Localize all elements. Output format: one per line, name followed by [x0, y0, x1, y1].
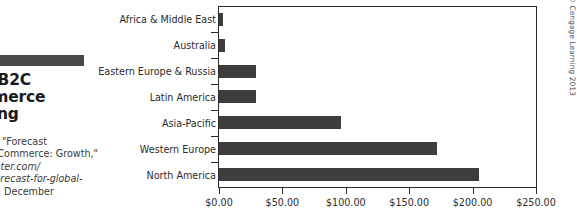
category-label: Western Europe — [96, 144, 216, 155]
plot-area — [218, 6, 537, 188]
x-tick — [219, 188, 220, 194]
bar — [219, 65, 256, 78]
category-label: Latin America — [96, 92, 216, 103]
y-tick — [211, 58, 218, 59]
category-label: Asia-Pacific — [96, 118, 216, 129]
bar-row — [219, 168, 536, 181]
bar — [219, 168, 479, 181]
x-tick-label: $150.00 — [389, 197, 429, 208]
y-tick — [211, 110, 218, 111]
category-label: Australia — [96, 40, 216, 51]
x-tick-label: $200.00 — [453, 197, 493, 208]
bar — [219, 39, 225, 52]
category-label: Eastern Europe & Russia — [96, 66, 216, 77]
bar — [219, 13, 223, 26]
bar — [219, 116, 341, 129]
copyright-notice: © Cengage Learning 2013 — [568, 0, 577, 96]
x-tick-label: $250.00 — [516, 197, 556, 208]
category-axis-labels: Africa & Middle EastAustraliaEastern Eur… — [96, 6, 216, 188]
x-axis-tick-labels: $0.00$50.00$100.00$150.00$200.00$250.00 — [218, 197, 538, 211]
bar-row — [219, 39, 536, 52]
x-axis-ticks — [218, 188, 538, 196]
x-tick-label: $0.00 — [205, 197, 232, 208]
y-tick — [211, 136, 218, 137]
x-tick — [473, 188, 474, 194]
bar-row — [219, 116, 536, 129]
bar-row — [219, 90, 536, 103]
category-label: North America — [96, 170, 216, 181]
x-tick — [282, 188, 283, 194]
x-tick — [409, 188, 410, 194]
y-tick — [211, 162, 218, 163]
bar-row — [219, 13, 536, 26]
bar — [219, 142, 437, 155]
x-tick-label: $50.00 — [266, 197, 300, 208]
x-tick — [346, 188, 347, 194]
x-tick — [536, 188, 537, 194]
bar — [219, 90, 256, 103]
bar-series — [219, 7, 536, 187]
x-tick-label: $100.00 — [326, 197, 366, 208]
bar-row — [219, 65, 536, 78]
category-label: Africa & Middle East — [96, 14, 216, 25]
y-tick — [211, 84, 218, 85]
bar-row — [219, 142, 536, 155]
y-tick — [211, 32, 218, 33]
